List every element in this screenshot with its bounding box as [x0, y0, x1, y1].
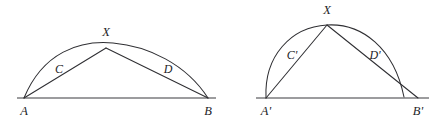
- vertex-label-x: X: [101, 25, 111, 39]
- figure-canvas: A B X C D A' B' X C' D': [0, 0, 445, 126]
- arc-label-d-prime: D': [368, 48, 381, 62]
- left-chord-ax: [24, 48, 106, 98]
- arc-label-d: D: [163, 62, 173, 76]
- vertex-label-a-prime: A': [260, 104, 272, 118]
- left-arc-curve: [24, 43, 208, 98]
- vertex-label-x-prime-apex: X: [322, 3, 332, 17]
- vertex-label-a: A: [19, 104, 28, 118]
- left-panel: A B X C D: [17, 25, 216, 118]
- arc-label-c-prime: C': [287, 48, 298, 62]
- right-panel: A' B' X C' D': [256, 3, 429, 118]
- vertex-label-b-prime: B': [413, 104, 424, 118]
- vertex-label-b: B: [204, 104, 212, 118]
- arc-label-c: C: [55, 62, 64, 76]
- left-chord-xb: [106, 48, 208, 98]
- geometry-figure: A B X C D A' B' X C' D': [0, 0, 445, 126]
